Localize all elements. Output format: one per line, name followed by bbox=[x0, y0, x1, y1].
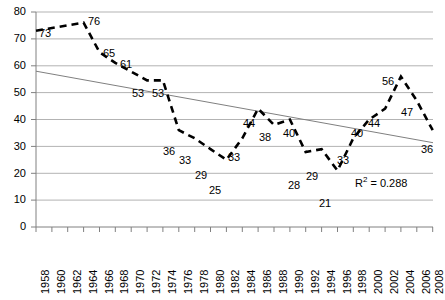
x-tick-label: 1964 bbox=[88, 270, 99, 294]
x-tick-label: 1958 bbox=[40, 270, 51, 294]
x-tick-label: 1966 bbox=[104, 270, 115, 294]
y-tick-label: 20 bbox=[2, 168, 26, 179]
x-tick-label: 1968 bbox=[119, 270, 130, 294]
x-tick-label: 1980 bbox=[215, 270, 226, 294]
x-tick-label: 1970 bbox=[135, 270, 146, 294]
data-point-label: 47 bbox=[401, 107, 413, 118]
data-point-label: 56 bbox=[382, 76, 394, 87]
x-tick-label: 1986 bbox=[262, 270, 273, 294]
x-tick-label: 2004 bbox=[405, 270, 416, 294]
x-tick-label: 2008 bbox=[434, 270, 445, 294]
data-point-label: 40 bbox=[283, 128, 295, 139]
x-tick-label: 1962 bbox=[72, 270, 83, 294]
y-tick-label: 0 bbox=[2, 221, 26, 232]
r-squared-value: = 0.288 bbox=[367, 177, 407, 189]
data-point-label: 33 bbox=[337, 155, 349, 166]
data-point-label: 36 bbox=[421, 144, 433, 155]
x-tick-label: 2006 bbox=[421, 270, 432, 294]
data-series-line bbox=[36, 23, 433, 171]
data-point-label: 40 bbox=[351, 128, 363, 139]
y-tick-label: 60 bbox=[2, 60, 26, 71]
x-tick-label: 1972 bbox=[151, 270, 162, 294]
data-point-label: 38 bbox=[259, 132, 271, 143]
data-point-label: 33 bbox=[179, 155, 191, 166]
y-tick-label: 10 bbox=[2, 194, 26, 205]
gridlines bbox=[36, 12, 433, 200]
data-point-label: 25 bbox=[209, 185, 221, 196]
x-tick-label: 1982 bbox=[230, 270, 241, 294]
data-point-label: 29 bbox=[306, 171, 318, 182]
x-tick-label: 1998 bbox=[357, 270, 368, 294]
data-point-label: 36 bbox=[163, 146, 175, 157]
x-tick-label: 1988 bbox=[278, 270, 289, 294]
data-point-label: 53 bbox=[132, 88, 144, 99]
y-tick-label: 70 bbox=[2, 33, 26, 44]
data-point-label: 65 bbox=[103, 48, 115, 59]
trendline-series bbox=[36, 71, 433, 143]
data-point-label: 76 bbox=[88, 16, 100, 27]
data-point-label: 21 bbox=[319, 198, 331, 209]
data-point-label: 28 bbox=[288, 180, 300, 191]
x-tick-label: 1960 bbox=[56, 270, 67, 294]
data-point-label: 44 bbox=[368, 118, 380, 129]
data-point-label: 44 bbox=[243, 118, 255, 129]
y-tick-label: 50 bbox=[2, 87, 26, 98]
x-axis-ticks bbox=[36, 227, 433, 232]
y-axis-ticks bbox=[31, 12, 36, 227]
data-point-label: 73 bbox=[39, 28, 51, 39]
x-tick-label: 2000 bbox=[373, 270, 384, 294]
data-point-label: 29 bbox=[195, 170, 207, 181]
r-squared-prefix: R bbox=[355, 177, 363, 189]
data-point-label: 53 bbox=[152, 88, 164, 99]
x-tick-label: 2002 bbox=[389, 270, 400, 294]
x-tick-label: 1976 bbox=[183, 270, 194, 294]
y-tick-label: 30 bbox=[2, 141, 26, 152]
data-point-label: 33 bbox=[228, 152, 240, 163]
data-point-label: 61 bbox=[120, 59, 132, 70]
x-tick-label: 1974 bbox=[167, 270, 178, 294]
x-tick-label: 1990 bbox=[294, 270, 305, 294]
x-tick-label: 1992 bbox=[310, 270, 321, 294]
y-tick-label: 40 bbox=[2, 114, 26, 125]
r-squared-annotation: R2 = 0.288 bbox=[355, 174, 407, 189]
x-tick-label: 1984 bbox=[246, 270, 257, 294]
y-tick-label: 80 bbox=[2, 6, 26, 17]
x-tick-label: 1978 bbox=[199, 270, 210, 294]
x-tick-label: 1996 bbox=[342, 270, 353, 294]
x-tick-label: 1994 bbox=[326, 270, 337, 294]
